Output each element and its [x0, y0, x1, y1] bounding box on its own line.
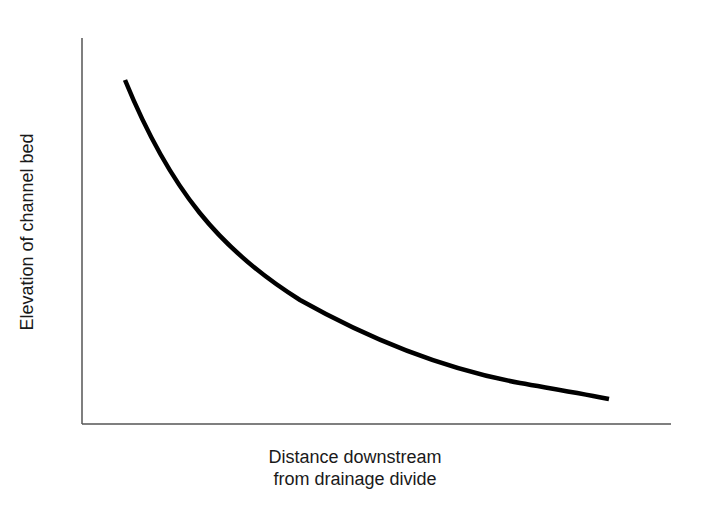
x-axis-label: Distance downstream from drainage divide: [255, 446, 455, 490]
x-axis-label-line-2: from drainage divide: [255, 468, 455, 490]
x-axis-label-line-1: Distance downstream: [255, 446, 455, 468]
profile-curve: [125, 80, 609, 399]
y-axis-label: Elevation of channel bed: [17, 133, 38, 330]
